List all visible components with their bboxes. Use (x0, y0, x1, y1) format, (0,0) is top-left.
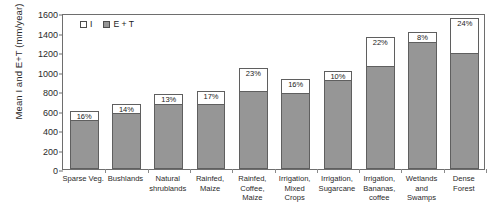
bar-segment-irrigation: 14% (112, 104, 141, 113)
bar-percent-label: 16% (288, 81, 303, 89)
bar-percent-label: 23% (246, 70, 261, 78)
bar-stack: 17% (197, 91, 226, 169)
bar-segment-et (197, 104, 226, 169)
bar-segment-irrigation: 24% (450, 18, 479, 53)
bar-group: 17% (190, 15, 232, 169)
y-axis-title: Mean I and E+T (mm/year) (13, 0, 24, 132)
bar-group: 13% (148, 15, 190, 169)
bar-group: 16% (275, 15, 317, 169)
bar-percent-label: 13% (161, 96, 176, 104)
x-axis-tick-mark (148, 169, 149, 173)
bar-group: 8% (401, 15, 443, 169)
bar-segment-irrigation: 22% (366, 37, 395, 65)
y-axis-tick-mark (59, 171, 63, 172)
bar-segment-irrigation: 16% (281, 79, 310, 93)
bar-segment-et (281, 93, 310, 169)
legend-label: E + T (113, 19, 134, 29)
x-axis-tick-mark (317, 169, 318, 173)
bar-stack: 10% (324, 71, 353, 169)
bar-series-group: 16%14%13%17%23%16%10%22%8%24% (63, 15, 484, 169)
legend-swatch-icon (80, 21, 87, 28)
x-axis-tick-mark (275, 169, 276, 173)
bar-percent-label: 16% (77, 113, 92, 121)
x-axis-tick-mark (232, 169, 233, 173)
bar-segment-et (239, 91, 268, 169)
x-axis-labels: Sparse Veg.BushlandsNaturalshrublandsRai… (62, 174, 485, 220)
bar-stack: 23% (239, 68, 268, 169)
bar-chart: Mean I and E+T (mm/year) 020040060080010… (0, 0, 501, 222)
bar-group: 16% (63, 15, 105, 169)
x-axis-tick-mark (190, 169, 191, 173)
legend-label: I (90, 19, 92, 29)
bar-segment-irrigation: 16% (70, 111, 99, 121)
bar-group: 24% (444, 15, 486, 169)
bar-percent-label: 8% (417, 34, 428, 42)
bar-segment-et (450, 53, 479, 169)
bar-stack: 14% (112, 104, 141, 169)
bar-segment-irrigation: 13% (154, 94, 183, 104)
legend-item: I (80, 19, 92, 29)
bar-group: 10% (317, 15, 359, 169)
bar-segment-irrigation: 8% (408, 32, 437, 43)
legend-item: E + T (103, 19, 134, 29)
bar-segment-et (324, 80, 353, 169)
bar-group: 14% (105, 15, 147, 169)
bar-stack: 16% (281, 79, 310, 169)
x-axis-tick-mark (401, 169, 402, 173)
bar-stack: 16% (70, 111, 99, 170)
x-axis-label-line: Swamps (396, 193, 446, 203)
bar-segment-et (154, 104, 183, 169)
bar-stack: 13% (154, 94, 183, 169)
bar-stack: 24% (450, 18, 479, 169)
chart-legend: IE + T (80, 19, 134, 29)
bar-stack: 22% (366, 37, 395, 169)
bar-segment-et (366, 66, 395, 169)
bar-segment-et (70, 120, 99, 169)
x-axis-tick-mark (105, 169, 106, 173)
legend-swatch-icon (103, 21, 110, 28)
x-axis-tick-mark (359, 169, 360, 173)
x-axis-tick-mark (486, 169, 487, 173)
bar-segment-irrigation: 17% (197, 91, 226, 104)
x-axis-label: DenseForest (439, 174, 489, 193)
x-axis-tick-mark (444, 169, 445, 173)
bar-stack: 8% (408, 32, 437, 169)
bar-group: 22% (359, 15, 401, 169)
bar-percent-label: 24% (457, 20, 472, 28)
bar-segment-et (112, 113, 141, 169)
bar-percent-label: 10% (330, 73, 345, 81)
x-axis-label-line: Dense (439, 174, 489, 184)
plot-area: 02004006008001000120014001600 16%14%13%1… (62, 14, 485, 170)
bar-segment-irrigation: 10% (324, 71, 353, 81)
bar-percent-label: 17% (204, 93, 219, 101)
x-axis-label-line: Crops (270, 193, 320, 203)
x-axis-label-line: Forest (439, 184, 489, 194)
bar-segment-irrigation: 23% (239, 68, 268, 91)
bar-percent-label: 22% (373, 39, 388, 47)
bar-percent-label: 14% (119, 106, 134, 114)
bar-group: 23% (232, 15, 274, 169)
bar-segment-et (408, 42, 437, 169)
